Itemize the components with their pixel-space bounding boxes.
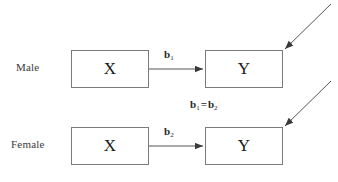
group-label-female: Female [11, 138, 45, 150]
path-coefficient-label-male: b1 [164, 48, 174, 60]
node-box-y-female: Y [205, 127, 283, 165]
path-coefficient-subscript-female: 2 [170, 131, 174, 139]
constraint-operator: = [200, 98, 208, 110]
node-label-x-male: X [104, 60, 116, 79]
node-box-x-female: X [71, 127, 149, 165]
group-label-male: Male [16, 61, 39, 73]
node-box-x-male: X [71, 50, 149, 88]
constraint-right-subscript: 2 [214, 104, 218, 112]
node-label-y-male: Y [238, 60, 250, 79]
path-diagram: Male Female X Y X Y b1 b2 b1=b2 [0, 0, 338, 182]
diagram-edges [0, 0, 338, 182]
disturbance-arrow-female [285, 81, 331, 126]
node-box-y-male: Y [205, 50, 283, 88]
disturbance-arrow-male [285, 4, 331, 49]
constraint-left-subscript: 1 [196, 104, 200, 112]
path-coefficient-label-female: b2 [164, 125, 174, 137]
path-coefficient-subscript-male: 1 [170, 54, 174, 62]
node-label-x-female: X [104, 137, 116, 156]
equality-constraint-label: b1=b2 [190, 98, 218, 110]
node-label-y-female: Y [238, 137, 250, 156]
